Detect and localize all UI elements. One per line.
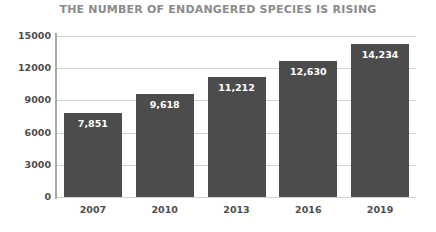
y-axis-tick-label: 6000	[3, 127, 51, 138]
chart-title: THE NUMBER OF ENDANGERED SPECIES IS RISI…	[0, 3, 436, 16]
bar-chart: THE NUMBER OF ENDANGERED SPECIES IS RISI…	[0, 0, 436, 232]
bar-value-label: 7,851	[64, 118, 122, 129]
y-axis-tick-labels: 15000120009000600030000	[0, 0, 51, 232]
bar-value-label: 9,618	[136, 99, 194, 110]
bar: 7,851	[64, 113, 122, 197]
bar: 11,212	[208, 77, 266, 197]
bar: 12,630	[279, 61, 337, 197]
gridline	[57, 197, 416, 198]
bar: 9,618	[136, 94, 194, 197]
y-axis-tick-label: 12000	[3, 62, 51, 73]
x-axis-tick-label: 2013	[201, 204, 273, 215]
bar-value-label: 12,630	[279, 66, 337, 77]
y-axis-tick-label: 0	[3, 191, 51, 202]
x-axis-tick-label: 2010	[129, 204, 201, 215]
x-axis-tick-label: 2007	[57, 204, 129, 215]
bar-value-label: 14,234	[351, 49, 409, 60]
y-axis-tick-label: 15000	[3, 30, 51, 41]
bar-value-label: 11,212	[208, 82, 266, 93]
x-axis-tick-label: 2016	[272, 204, 344, 215]
x-axis-tick-label: 2019	[344, 204, 416, 215]
bar: 14,234	[351, 44, 409, 197]
plot-area: 7,8519,61811,21212,63014,234	[57, 36, 416, 197]
y-axis-tick-label: 3000	[3, 159, 51, 170]
gridline	[57, 36, 416, 37]
y-axis-tick-label: 9000	[3, 94, 51, 105]
